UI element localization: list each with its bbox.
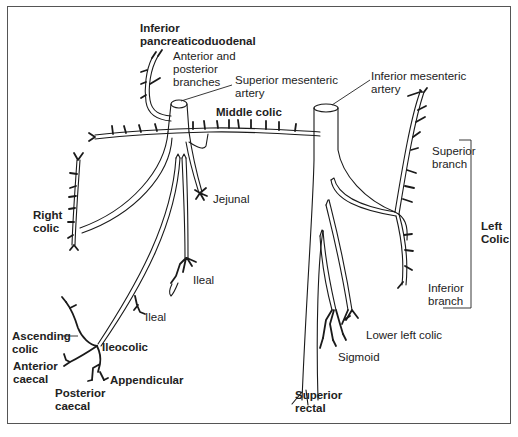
label-ileal-lower: Ileal bbox=[145, 311, 166, 324]
label-superior-rectal: Superior rectal bbox=[295, 389, 342, 415]
right-colic-artery bbox=[68, 153, 83, 250]
label-anterior-caecal: Anterior caecal bbox=[13, 360, 58, 386]
label-sigmoid: Sigmoid bbox=[338, 351, 380, 364]
sigmoid-branches bbox=[320, 310, 358, 348]
label-jejunal: Jejunal bbox=[213, 193, 249, 206]
label-inferior-branch: Inferior branch bbox=[428, 282, 464, 308]
label-ileal-upper: Ileal bbox=[193, 274, 214, 287]
label-appendicular: Appendicular bbox=[110, 374, 183, 387]
left-colic-artery bbox=[395, 88, 427, 288]
label-posterior-caecal: Posterior caecal bbox=[55, 387, 106, 413]
middle-colic-artery bbox=[89, 120, 320, 148]
sma-main-branches bbox=[80, 132, 207, 346]
label-lower-left-colic: Lower left colic bbox=[366, 329, 442, 342]
label-left-colic: Left Colic bbox=[481, 220, 509, 246]
inferior-pancreaticoduodenal-artery bbox=[141, 50, 171, 121]
label-middle-colic: Middle colic bbox=[216, 106, 282, 119]
artery-diagram bbox=[0, 0, 518, 437]
label-ileocolic: Ileocolic bbox=[102, 341, 148, 354]
label-inferior-pancreaticoduodenal: Inferior pancreaticoduodenal bbox=[140, 22, 256, 48]
label-superior-branch: Superior branch bbox=[432, 145, 475, 171]
label-superior-mesenteric-artery: Superior mesenteric artery bbox=[235, 74, 338, 100]
label-ascending-colic: Ascending colic bbox=[12, 330, 71, 356]
label-inferior-mesenteric-artery: Inferior mesenteric artery bbox=[371, 70, 466, 96]
label-right-colic: Right colic bbox=[33, 209, 62, 235]
label-anterior-posterior-branches: Anterior and posterior branches bbox=[173, 50, 236, 89]
